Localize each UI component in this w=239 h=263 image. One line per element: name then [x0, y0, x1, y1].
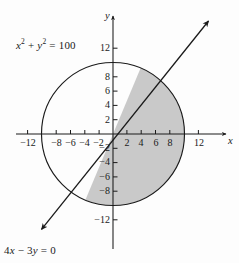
y-tick-label: −6	[92, 171, 110, 182]
y-tick-label: −4	[92, 156, 110, 167]
x-tick-label: 8	[163, 137, 177, 148]
x-tick-label: 12	[191, 137, 207, 148]
y-tick-label: −8	[92, 185, 110, 196]
x-axis-label: x	[228, 135, 233, 146]
y-tick-label: 12	[92, 42, 110, 53]
y-tick-label: −12	[88, 214, 110, 225]
y-tick-label: 6	[92, 85, 110, 96]
y-tick-label: 8	[92, 71, 110, 82]
line-equation-label: 4x − 3y = 0	[4, 244, 56, 256]
x-tick-label: 2	[120, 137, 134, 148]
x-tick-label: 4	[134, 137, 148, 148]
circle-equation-label: x2 + y2 = 100	[16, 39, 76, 51]
y-axis-label: y	[105, 10, 110, 21]
circle-constant: 100	[59, 39, 76, 51]
x-tick-label: 6	[149, 137, 163, 148]
y-tick-label: 2	[92, 114, 110, 125]
x-tick-label: −12	[16, 137, 40, 148]
y-tick-label: 4	[92, 99, 110, 110]
graph-figure: x2 + y2 = 100 4x − 3y = 0 x y −12 −8 −6 …	[0, 0, 239, 263]
y-tick-label: −2	[92, 142, 110, 153]
